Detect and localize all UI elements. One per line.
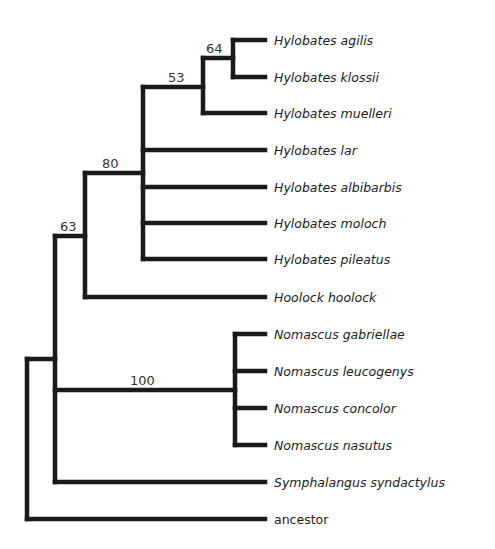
- support-value: 64: [206, 41, 223, 56]
- tip-label: Hylobates lar: [274, 143, 358, 158]
- tip-label: Hylobates pileatus: [274, 252, 391, 267]
- tip-label: Nomascus leucogenys: [274, 364, 414, 379]
- tip-label: Symphalangus syndactylus: [274, 475, 445, 490]
- support-value: 63: [60, 219, 77, 234]
- tip-label: Hylobates agilis: [274, 33, 374, 48]
- tip-label: Nomascus concolor: [274, 401, 397, 416]
- tree-branches: [27, 40, 265, 519]
- tip-label: Nomascus nasutus: [274, 438, 392, 453]
- support-value: 100: [130, 373, 155, 388]
- tip-label: Hylobates muelleri: [274, 106, 392, 121]
- tip-label: Hylobates klossii: [274, 70, 379, 85]
- tip-label: Nomascus gabriellae: [274, 327, 405, 342]
- support-value: 53: [168, 70, 185, 85]
- tip-label: Hylobates moloch: [274, 216, 386, 231]
- support-value: 80: [102, 156, 119, 171]
- tip-labels: Hylobates agilisHylobates klossiiHylobat…: [274, 33, 445, 527]
- phylogenetic-tree: 64538063100 Hylobates agilisHylobates kl…: [0, 0, 495, 549]
- tip-label: ancestor: [274, 512, 329, 527]
- tip-label: Hoolock hoolock: [274, 290, 377, 305]
- tip-label: Hylobates albibarbis: [274, 180, 402, 195]
